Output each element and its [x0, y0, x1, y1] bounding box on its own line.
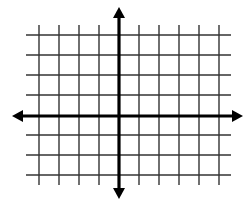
- vertical-grid-lines: [39, 25, 219, 185]
- arrow-left-icon: [12, 110, 23, 122]
- horizontal-grid-lines: [26, 35, 231, 175]
- axes: [12, 7, 243, 199]
- arrow-right-icon: [232, 110, 243, 122]
- arrow-up-icon: [113, 7, 125, 18]
- arrow-down-icon: [113, 188, 125, 199]
- coordinate-plane: [0, 0, 248, 205]
